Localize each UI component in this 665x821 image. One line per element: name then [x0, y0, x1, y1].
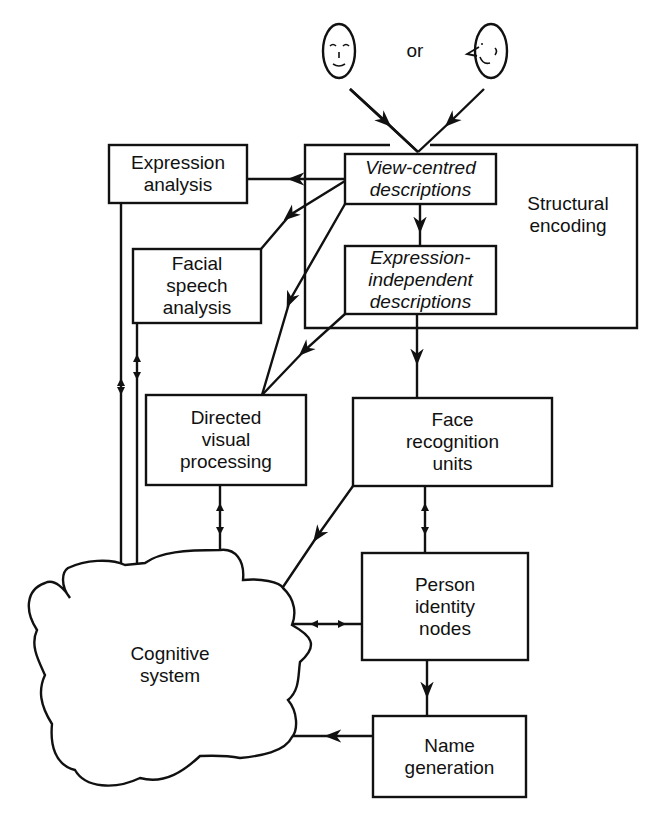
face-recognition-units-box: Face recognition units	[353, 398, 552, 486]
frontal-face-icon	[323, 24, 355, 78]
cognitive-system-label: Cognitive system	[110, 640, 230, 690]
directed-visual-processing-box: Directed visual processing	[146, 395, 306, 485]
facial-speech-analysis-box: Facial speech analysis	[133, 249, 261, 323]
view-centred-descriptions-box: View-centred descriptions	[345, 154, 496, 204]
or-label: or	[395, 38, 435, 64]
expression-independent-descriptions-box: Expression- independent descriptions	[345, 246, 496, 314]
person-identity-nodes-box: Person identity nodes	[362, 553, 528, 660]
name-generation-box: Name generation	[373, 716, 526, 797]
expression-analysis-box: Expression analysis	[109, 145, 247, 203]
profile-face-icon	[467, 24, 507, 78]
structural-encoding-label: Structural encoding	[508, 190, 628, 240]
diagram-canvas	[0, 0, 665, 821]
